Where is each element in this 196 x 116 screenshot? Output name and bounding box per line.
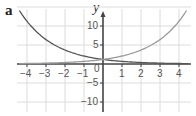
y-tick-label: −5 xyxy=(87,77,98,88)
y-tick-label: 10 xyxy=(87,20,98,31)
x-tick-label: 4 xyxy=(176,68,182,79)
y-axis-arrow-icon xyxy=(101,11,106,17)
origin-label: 0 xyxy=(94,63,100,74)
y-tick-label: −10 xyxy=(81,96,98,107)
chart-plot-area xyxy=(0,0,196,116)
x-tick-label: 1 xyxy=(119,68,125,79)
x-tick-label: −2 xyxy=(58,68,69,79)
y-tick-label: 5 xyxy=(93,39,99,50)
x-tick-label: 3 xyxy=(157,68,163,79)
x-tick-label: −4 xyxy=(20,68,31,79)
x-tick-label: −3 xyxy=(39,68,50,79)
x-tick-label: 2 xyxy=(138,68,144,79)
